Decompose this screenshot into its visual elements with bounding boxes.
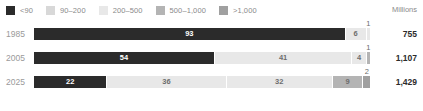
bar-segment-label: 1 xyxy=(366,42,370,54)
bar-segment-label: 41 xyxy=(279,52,287,64)
bar-segment-label: 32 xyxy=(275,76,283,88)
bar-segment-label: 2 xyxy=(365,66,369,78)
legend-label-0: <90 xyxy=(20,6,33,15)
chart-rows: 1985936175520055441411,1072025223632921,… xyxy=(0,22,423,94)
bar-segment-label: 6 xyxy=(354,28,358,40)
legend-swatch-icon-1 xyxy=(46,6,55,15)
legend-item-3: 500–1,000 xyxy=(156,6,206,15)
row-year-label: 1985 xyxy=(6,22,32,46)
legend-swatch-icon-3 xyxy=(156,6,165,15)
legend-item-1: 90–200 xyxy=(46,6,86,15)
bar-segment[interactable]: 9 xyxy=(332,76,363,88)
bar-segment-label: 22 xyxy=(66,76,74,88)
row-total-value: 1,429 xyxy=(396,70,417,94)
row-total-value: 1,107 xyxy=(396,46,417,70)
row-year-label: 2005 xyxy=(6,46,32,70)
bar-segment-label: 1 xyxy=(366,18,370,30)
legend-item-4: >1,000 xyxy=(219,6,257,15)
bar-segment[interactable]: 32 xyxy=(226,76,332,88)
legend-swatch-icon-0 xyxy=(6,6,15,15)
legend-label-4: >1,000 xyxy=(233,6,257,15)
chart-legend: <90 90–200 200–500 500–1,000 >1,000 Mill… xyxy=(6,4,417,16)
bar-segment-label: 9 xyxy=(346,76,350,88)
legend-swatch-icon-2 xyxy=(99,6,108,15)
bar-segment[interactable]: 4 xyxy=(351,52,365,64)
stacked-bar: 9361 xyxy=(34,28,370,40)
bar-segment-label: 4 xyxy=(357,52,361,64)
row-year-label: 2025 xyxy=(6,70,32,94)
legend-item-0: <90 xyxy=(6,6,33,15)
legend-item-2: 200–500 xyxy=(99,6,143,15)
bar-segment[interactable]: 1 xyxy=(366,52,370,64)
legend-label-3: 500–1,000 xyxy=(170,6,206,15)
row-total-value: 755 xyxy=(403,22,417,46)
legend-units-label: Millions xyxy=(392,4,417,16)
stacked-bar: 22363292 xyxy=(34,76,370,88)
bar-segment[interactable]: 93 xyxy=(34,28,345,40)
chart-row: 20055441411,107 xyxy=(0,46,423,70)
stacked-bar-chart: <90 90–200 200–500 500–1,000 >1,000 Mill… xyxy=(0,0,423,111)
legend-label-2: 200–500 xyxy=(113,6,143,15)
bar-segment[interactable]: 1 xyxy=(366,28,370,40)
bar-segment[interactable]: 22 xyxy=(34,76,106,88)
chart-row: 19859361755 xyxy=(0,22,423,46)
bar-segment[interactable]: 2 xyxy=(362,76,370,88)
bar-segment[interactable]: 6 xyxy=(345,28,366,40)
bar-segment[interactable]: 36 xyxy=(106,76,225,88)
chart-row: 2025223632921,429 xyxy=(0,70,423,94)
legend-swatch-icon-4 xyxy=(219,6,228,15)
bar-segment[interactable]: 54 xyxy=(34,52,214,64)
bar-segment-label: 93 xyxy=(185,28,193,40)
bar-segment[interactable]: 41 xyxy=(214,52,352,64)
bar-segment-label: 36 xyxy=(162,76,170,88)
bar-segment-label: 54 xyxy=(120,52,128,64)
stacked-bar: 544141 xyxy=(34,52,370,64)
legend-label-1: 90–200 xyxy=(60,6,86,15)
